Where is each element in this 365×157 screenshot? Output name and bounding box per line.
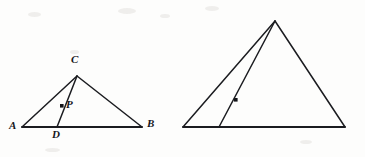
vertex-label-C: C	[71, 54, 78, 65]
side-B-prime-C-prime	[275, 21, 345, 127]
side-A-prime-C-prime	[183, 21, 275, 127]
point-label-P: P	[66, 99, 73, 110]
triangle-right-group	[183, 21, 345, 127]
triangle-left-group	[22, 76, 142, 127]
figure-canvas: A B C D P	[0, 0, 365, 157]
point-P-marker	[60, 104, 64, 108]
point-P-prime-marker	[234, 98, 238, 102]
side-BC	[77, 76, 142, 127]
vertex-label-B: B	[147, 118, 154, 129]
vertex-label-D: D	[52, 129, 60, 140]
cevian-C-prime-D-prime	[219, 21, 275, 127]
vertex-label-A: A	[9, 120, 16, 131]
